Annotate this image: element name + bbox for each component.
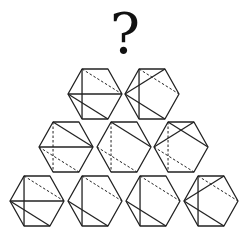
dashed-diagonal [82, 176, 122, 201]
dashed-diagonal [82, 69, 122, 94]
solid-diagonal [10, 201, 50, 226]
hexagon-figure [10, 176, 64, 226]
solid-diagonal [184, 201, 224, 226]
dashed-diagonal [39, 147, 79, 172]
dashed-diagonal [97, 147, 137, 172]
hexagon-pyramid [0, 0, 249, 237]
solid-diagonal [125, 94, 165, 119]
hexagon-figure [184, 176, 238, 226]
hexagon-figure [125, 69, 179, 119]
hexagon-figure [68, 176, 122, 226]
solid-diagonal [111, 122, 151, 147]
hexagon-figure [39, 122, 93, 172]
hexagon-figure [154, 122, 208, 172]
dashed-diagonal [154, 147, 194, 172]
hexagon-figure [97, 122, 151, 172]
dashed-diagonal [24, 176, 64, 201]
dashed-diagonal [140, 176, 180, 201]
hexagon-figure [126, 176, 180, 226]
solid-diagonal [53, 122, 93, 147]
hexagon-figure [68, 69, 122, 119]
solid-diagonal [68, 201, 108, 226]
solid-diagonal [68, 94, 108, 119]
solid-diagonal [126, 201, 166, 226]
